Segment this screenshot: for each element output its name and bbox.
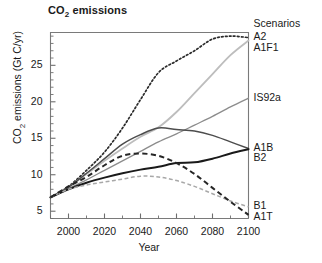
x-axis-tick-label: 2000: [49, 225, 89, 237]
y-axis-tick-label: 15: [23, 131, 43, 143]
series-label-a1f1: A1F1: [254, 41, 279, 53]
x-axis-tick-label: 2040: [121, 225, 161, 237]
x-axis-tick-label: 2080: [193, 225, 233, 237]
series-label-is92a: IS92a: [254, 91, 281, 103]
plot-frame: [51, 33, 249, 219]
series-line-is92a: [51, 98, 249, 197]
series-label-a1t: A1T: [254, 210, 273, 222]
series-line-a2: [51, 36, 249, 197]
series-label-b2: B2: [254, 151, 267, 163]
y-axis-tick-label: 25: [23, 58, 43, 70]
series-line-b2: [51, 149, 249, 197]
x-axis-tick-label: 2060: [157, 225, 197, 237]
x-axis-tick-label: 2100: [229, 225, 269, 237]
legend-title: Scenarios: [254, 17, 301, 29]
series-line-a1b: [51, 128, 249, 198]
co2-emissions-chart: CO2 emissions CO2 emissions (Gt C/yr) Ye…: [0, 0, 322, 263]
y-axis-tick-label: 20: [23, 95, 43, 107]
series-line-a1f1: [51, 41, 249, 198]
x-axis-tick-label: 2020: [85, 225, 125, 237]
y-axis-tick-label: 5: [23, 204, 43, 216]
series-line-b1: [51, 176, 249, 207]
y-axis-tick-label: 10: [23, 168, 43, 180]
